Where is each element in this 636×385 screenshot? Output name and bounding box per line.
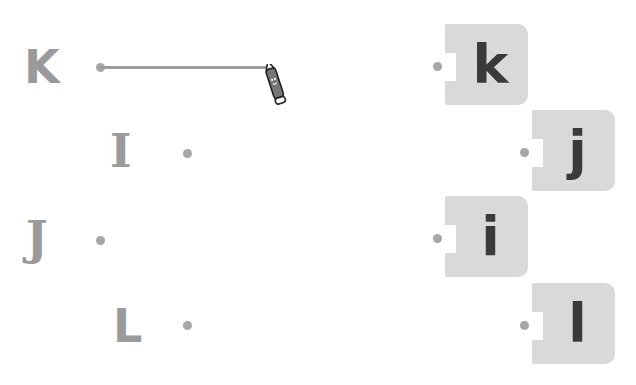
lowercase-letter-j: j xyxy=(532,110,615,191)
uppercase-letter-I[interactable]: I xyxy=(110,128,132,174)
connect-dot-l[interactable] xyxy=(520,321,529,330)
card-i[interactable]: i xyxy=(445,196,528,277)
lowercase-letter-i: i xyxy=(445,196,528,277)
uppercase-letter-K[interactable]: K xyxy=(24,44,60,90)
card-k[interactable]: k xyxy=(445,24,528,105)
connect-dot-L[interactable] xyxy=(183,321,192,330)
connection-line xyxy=(100,66,272,69)
lowercase-letter-l: l xyxy=(532,283,615,364)
uppercase-letter-J[interactable]: J xyxy=(26,215,48,261)
card-j[interactable]: j xyxy=(532,110,615,191)
connect-dot-j[interactable] xyxy=(520,148,529,157)
connect-dot-I[interactable] xyxy=(183,149,192,158)
lowercase-letter-k: k xyxy=(445,24,528,105)
card-l[interactable]: l xyxy=(532,283,615,364)
connect-dot-i[interactable] xyxy=(433,234,442,243)
connect-dot-k[interactable] xyxy=(433,62,442,71)
connect-dot-J[interactable] xyxy=(96,236,105,245)
pencil-icon[interactable] xyxy=(263,64,289,110)
uppercase-letter-L[interactable]: L xyxy=(113,303,142,349)
